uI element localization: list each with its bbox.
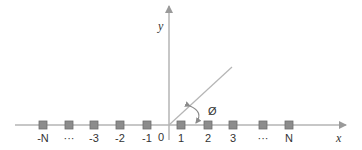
x-axis-label: x [335,131,342,145]
lattice-point-marker [65,121,73,129]
lattice-point-label: N [285,132,293,144]
lattice-point-label: 2 [205,132,211,144]
lattice-point-label: 3 [230,132,236,144]
angle-ray [169,67,232,125]
lattice-point-marker [229,121,237,129]
lattice-point-label: -1 [142,132,152,144]
lattice-point-marker [285,121,293,129]
lattice-diagram: -N···-3-2-1123···N 0 y x Ø [0,0,362,150]
lattice-point-label: ··· [64,132,75,144]
lattice-point-label: 1 [178,132,184,144]
y-axis-label: y [157,19,164,33]
angle-arc [190,106,199,123]
lattice-point-marker [259,121,267,129]
diagram-svg: -N···-3-2-1123···N 0 y x Ø [0,0,362,150]
lattice-point-marker [39,121,47,129]
origin-label: 0 [158,131,164,143]
lattice-point-marker [90,121,98,129]
lattice-point-label: -3 [89,132,99,144]
lattice-point-label: -N [37,132,49,144]
lattice-point-marker [177,121,185,129]
angle-label: Ø [208,105,217,117]
lattice-point-label: -2 [115,132,125,144]
lattice-point-label: ··· [258,132,269,144]
lattice-point-marker [204,121,212,129]
lattice-point-marker [143,121,151,129]
lattice-point-marker [116,121,124,129]
